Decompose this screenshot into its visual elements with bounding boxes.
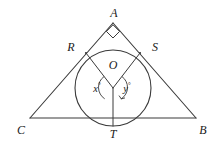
triangle-side-AB	[113, 23, 196, 118]
vertex-dot-R	[85, 52, 87, 54]
vertex-label-A: A	[110, 7, 117, 19]
degree-symbol-y: °	[128, 81, 131, 89]
tangent-label-R: R	[67, 41, 74, 53]
right-angle-marker-icon	[106, 25, 119, 38]
angle-label-x: x°	[93, 82, 100, 94]
vertex-label-C: C	[17, 124, 25, 136]
vertex-label-B: B	[199, 124, 206, 136]
tangent-label-T: T	[110, 128, 117, 140]
angle-label-y: y°	[123, 82, 130, 94]
geometry-figure: A R S O C T B x° y°	[0, 0, 220, 141]
tangent-label-S: S	[152, 41, 158, 53]
vertex-dot-S	[139, 52, 141, 54]
triangle-side-CA	[30, 23, 113, 118]
center-label-O: O	[109, 59, 118, 71]
degree-symbol-x: °	[98, 81, 101, 89]
